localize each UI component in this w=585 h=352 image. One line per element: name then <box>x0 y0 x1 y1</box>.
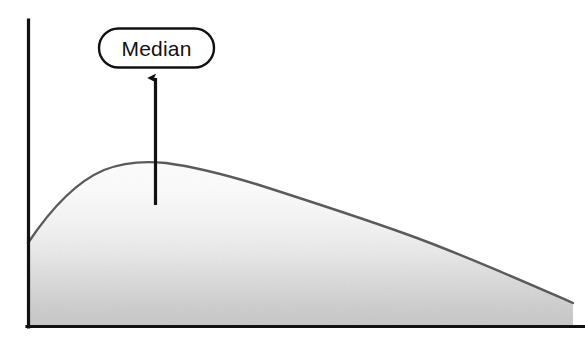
distribution-chart: Median <box>0 0 585 352</box>
median-callout-label: Median <box>121 37 191 60</box>
curve-area-fill <box>28 162 573 326</box>
figure-root: Median <box>0 0 585 352</box>
plot-area <box>28 162 573 326</box>
median-callout[interactable]: Median <box>99 29 214 68</box>
